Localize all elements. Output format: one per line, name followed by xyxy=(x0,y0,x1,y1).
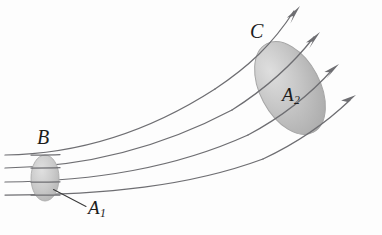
surface-A1-ellipse xyxy=(31,155,59,201)
diagram-canvas xyxy=(0,0,382,235)
magnetic-flux-diagram: B A1 C A2 xyxy=(0,0,382,235)
field-label-B: B xyxy=(37,127,49,147)
surface-A1-shape xyxy=(31,155,59,201)
surface-label-A2-text: A xyxy=(282,84,294,105)
surface-label-A1-subscript: 1 xyxy=(100,207,106,220)
surface-label-A2: A2 xyxy=(282,85,300,107)
surface-label-A1-text: A xyxy=(88,197,100,218)
leader-line-A1 xyxy=(54,190,87,207)
curve-label-C-text: C xyxy=(250,20,263,42)
curve-label-C: C xyxy=(250,21,263,41)
surface-label-A1: A1 xyxy=(88,198,106,220)
field-label-B-text: B xyxy=(37,126,49,148)
surface-label-A2-subscript: 2 xyxy=(294,94,300,107)
leader-line-A1-group xyxy=(54,190,87,207)
field-line-1-arrowhead xyxy=(287,6,300,23)
field-line-2-arrowhead xyxy=(306,32,320,49)
